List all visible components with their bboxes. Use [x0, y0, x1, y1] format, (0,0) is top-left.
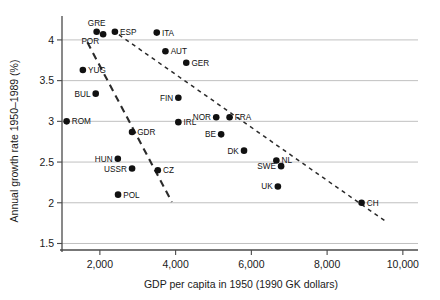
point-label: USSR [104, 165, 127, 174]
point-label: AUT [171, 47, 187, 56]
data-point: UK [261, 182, 281, 191]
gridlines-group [62, 40, 418, 244]
point-marker [275, 183, 282, 190]
datapoints-group: GREPORESPITAAUTGERYUGBULFINROMNORFRAIRLB… [63, 19, 378, 208]
market-countries-trend [112, 30, 384, 221]
point-label: FIN [160, 94, 173, 103]
point-label: ITA [162, 29, 175, 38]
point-label: GDR [137, 128, 155, 137]
point-marker [93, 28, 100, 35]
data-point: POL [115, 191, 140, 200]
point-label: DK [227, 147, 239, 156]
data-point: IRL [175, 118, 197, 127]
axes-group [60, 16, 418, 252]
point-marker [155, 167, 162, 174]
y-tick-label: 3 [48, 115, 54, 127]
chart-canvas: GREPORESPITAAUTGERYUGBULFINROMNORFRAIRLB… [0, 0, 440, 300]
point-marker [175, 94, 182, 101]
point-marker [115, 191, 122, 198]
data-point: CH [358, 199, 378, 208]
point-marker [218, 131, 225, 138]
point-marker [129, 165, 136, 172]
data-point: USSR [104, 165, 135, 174]
point-label: UK [261, 182, 273, 191]
x-tick-label: 6,000 [238, 258, 264, 270]
point-marker [92, 90, 99, 97]
point-label: IRL [184, 118, 197, 127]
point-label: HUN [95, 155, 113, 164]
x-tick-label: 10,000 [387, 258, 419, 270]
y-tick-label: 4 [48, 34, 54, 46]
point-label: ROM [72, 117, 91, 126]
data-point: FIN [160, 94, 182, 103]
point-marker [183, 59, 190, 66]
y-tick-label: 1.5 [39, 237, 54, 249]
point-label: CZ [163, 166, 174, 175]
y-axis-title: Annual growth rate 1950–1989 (%) [8, 60, 20, 223]
data-point: DK [227, 147, 247, 156]
point-label: YUG [88, 66, 106, 75]
data-point: BE [205, 130, 224, 139]
point-marker [100, 31, 107, 38]
data-point: AUT [162, 47, 187, 56]
point-marker [241, 147, 248, 154]
point-label: SWE [257, 162, 276, 171]
point-label: BE [205, 130, 216, 139]
point-label: ESP [120, 28, 137, 37]
point-label: POL [123, 191, 140, 200]
y-tick-label: 2 [48, 197, 54, 209]
point-label: GER [191, 59, 209, 68]
data-point: SWE [257, 162, 284, 171]
point-marker [278, 163, 285, 170]
x-axis-title: GDP per capita in 1950 (1990 GK dollars) [144, 278, 338, 290]
point-label: CH [367, 199, 379, 208]
data-point: BUL [75, 90, 99, 99]
data-point: ESP [112, 28, 137, 37]
x-tick-label: 8,000 [314, 258, 340, 270]
point-marker [358, 199, 365, 206]
data-point: GDR [129, 128, 156, 137]
x-tick-label: 2,000 [87, 258, 113, 270]
x-tick-label: 4,000 [162, 258, 188, 270]
point-label: GRE [88, 19, 106, 28]
data-point: ROM [63, 117, 91, 126]
point-marker [129, 129, 136, 136]
point-label: BUL [75, 90, 91, 99]
point-marker [226, 114, 233, 121]
scatter-chart: GREPORESPITAAUTGERYUGBULFINROMNORFRAIRLB… [0, 0, 440, 300]
data-point: GER [183, 59, 209, 68]
point-marker [153, 29, 160, 36]
point-marker [112, 28, 119, 35]
point-label: POR [81, 37, 99, 46]
point-marker [175, 119, 182, 126]
point-marker [162, 48, 169, 55]
point-marker [213, 114, 220, 121]
data-point: YUG [80, 66, 106, 75]
point-label: FRA [235, 113, 252, 122]
y-tick-label: 3.5 [39, 74, 54, 86]
point-marker [115, 156, 122, 163]
data-point: ITA [153, 29, 174, 38]
point-marker [80, 67, 87, 74]
y-tick-label: 2.5 [39, 156, 54, 168]
point-marker [63, 118, 70, 125]
